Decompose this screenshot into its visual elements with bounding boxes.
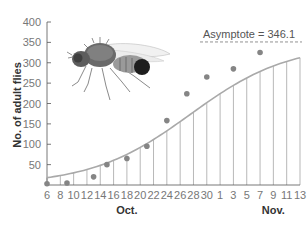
x-tick-label: 26 bbox=[174, 189, 186, 201]
x-tick-label: 14 bbox=[94, 189, 106, 201]
x-tick-label: 11 bbox=[281, 189, 292, 201]
y-tick-label: 300 bbox=[23, 57, 41, 69]
logistic-curve bbox=[47, 58, 300, 178]
fruit-fly-illustration bbox=[67, 37, 170, 100]
month-label-nov: Nov. bbox=[262, 204, 285, 216]
vertical-gridlines bbox=[47, 58, 300, 185]
x-tick-label: 28 bbox=[187, 189, 199, 201]
data-point bbox=[184, 91, 190, 97]
x-tick-label: 1 bbox=[217, 189, 223, 201]
data-point bbox=[231, 66, 237, 72]
y-tick-label: 100 bbox=[23, 138, 41, 150]
y-tick-label: 250 bbox=[23, 77, 41, 89]
x-tick-label: 22 bbox=[147, 189, 159, 201]
x-tick-label: 13 bbox=[294, 189, 306, 201]
data-point bbox=[204, 74, 210, 80]
y-axis-title: No. of adult flies bbox=[11, 62, 23, 148]
data-point bbox=[104, 162, 110, 168]
y-tick-label: 50 bbox=[29, 159, 41, 171]
data-point bbox=[164, 118, 170, 124]
asymptote-label: Asymptote = 346.1 bbox=[203, 28, 295, 40]
x-tick-label: 7 bbox=[257, 189, 263, 201]
x-tick-label: 3 bbox=[230, 189, 236, 201]
x-tick-label: 12 bbox=[81, 189, 93, 201]
data-point bbox=[144, 143, 150, 149]
y-tick-label: 400 bbox=[23, 16, 41, 28]
data-point bbox=[91, 174, 97, 180]
y-axis: 50100150200250300350400 bbox=[23, 16, 51, 185]
data-point bbox=[64, 180, 70, 186]
x-tick-label: 9 bbox=[270, 189, 276, 201]
x-tick-label: 18 bbox=[121, 189, 133, 201]
data-point bbox=[44, 181, 50, 187]
x-tick-label: 24 bbox=[161, 189, 173, 201]
y-tick-label: 350 bbox=[23, 36, 41, 48]
x-tick-label: 16 bbox=[107, 189, 119, 201]
data-point bbox=[124, 156, 130, 162]
x-tick-label: 10 bbox=[68, 189, 80, 201]
month-label-oct: Oct. bbox=[116, 204, 137, 216]
y-tick-label: 150 bbox=[23, 118, 41, 130]
x-tick-label: 6 bbox=[44, 189, 50, 201]
y-tick-label: 200 bbox=[23, 98, 41, 110]
x-tick-label: 5 bbox=[244, 189, 250, 201]
x-tick-label: 20 bbox=[134, 189, 146, 201]
x-axis: 681012141618202224262830135791113 bbox=[44, 185, 306, 201]
x-tick-label: 30 bbox=[201, 189, 213, 201]
logistic-growth-chart: 50100150200250300350400 6810121416182022… bbox=[0, 0, 307, 226]
data-point bbox=[257, 50, 263, 56]
x-tick-label: 8 bbox=[57, 189, 63, 201]
